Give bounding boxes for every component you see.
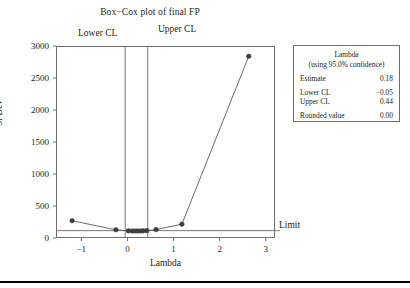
legend-row-lower-cl: Lower CL −0.05	[300, 88, 393, 98]
legend-value-rounded-value: 0.00	[371, 111, 393, 121]
legend-title: Lambda	[300, 50, 393, 60]
boxcox-chart-figure: Box−Cox plot of final FP Lower CL Upper …	[0, 0, 410, 288]
y-tick-label: 3000	[15, 42, 49, 51]
x-tick-label: 3	[253, 245, 279, 254]
x-tick-label: −1	[68, 245, 94, 254]
x-tick-label: 2	[207, 245, 233, 254]
y-axis-title: St Dev	[0, 100, 4, 126]
lambda-legend-box: Lambda (using 95.0% confidence) Estimate…	[293, 45, 400, 122]
y-tick-label: 0	[15, 234, 49, 243]
legend-label-upper-cl: Upper CL	[300, 97, 330, 107]
legend-row-estimate: Estimate 0.18	[300, 74, 393, 84]
y-tick-label: 500	[15, 202, 49, 211]
legend-row-rounded-value: Rounded value 0.00	[300, 111, 393, 121]
x-axis-title: Lambda	[56, 258, 275, 268]
y-tick-label: 2500	[15, 74, 49, 83]
y-tick-label: 1000	[15, 170, 49, 179]
legend-row-upper-cl: Upper CL 0.44	[300, 97, 393, 107]
x-tick-label: 1	[161, 245, 187, 254]
y-tick-label: 2000	[15, 106, 49, 115]
page-rule	[0, 281, 410, 283]
legend-label-estimate: Estimate	[300, 74, 326, 84]
legend-label-rounded-value: Rounded value	[300, 111, 345, 121]
legend-subtitle: (using 95.0% confidence)	[300, 60, 393, 70]
legend-value-upper-cl: 0.44	[371, 97, 393, 107]
legend-value-estimate: 0.18	[371, 74, 393, 84]
chart-canvas	[0, 0, 410, 288]
limit-annotation: Limit	[279, 220, 300, 230]
legend-label-lower-cl: Lower CL	[300, 88, 331, 98]
y-tick-label: 1500	[15, 138, 49, 147]
x-tick-label: 0	[114, 245, 140, 254]
legend-value-lower-cl: −0.05	[371, 88, 393, 98]
